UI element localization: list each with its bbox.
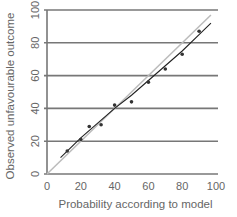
y-tick-label: 60 (29, 69, 41, 81)
data-point (87, 125, 91, 129)
data-point (130, 100, 134, 104)
y-tick-label: 40 (29, 102, 41, 114)
data-point (147, 80, 151, 84)
x-axis-label: Probability according to model (58, 198, 212, 210)
data-point (113, 103, 117, 107)
x-tick-label: 20 (75, 180, 87, 192)
identity-line (47, 15, 211, 174)
x-tick-label: 80 (176, 180, 188, 192)
y-tick-label: 100 (29, 1, 41, 19)
y-tick-label: 0 (29, 171, 41, 177)
x-tick-label: 0 (44, 180, 50, 192)
calibration-chart: 020406080100 020406080100 Probability ac… (0, 0, 237, 217)
data-point (164, 67, 168, 71)
data-point (180, 52, 184, 56)
x-tick-label: 40 (108, 180, 120, 192)
y-axis-ticks: 020406080100 (29, 1, 41, 177)
data-point (65, 149, 69, 153)
x-tick-label: 60 (142, 180, 154, 192)
x-tick-label: 100 (207, 180, 225, 192)
y-tick-label: 80 (29, 37, 41, 49)
x-axis-ticks: 020406080100 (44, 180, 225, 192)
y-axis-label: Observed unfavourable outcome (4, 13, 16, 180)
y-tick-label: 20 (29, 135, 41, 147)
data-point (99, 123, 103, 127)
data-point (197, 30, 201, 34)
data-point (79, 138, 83, 142)
